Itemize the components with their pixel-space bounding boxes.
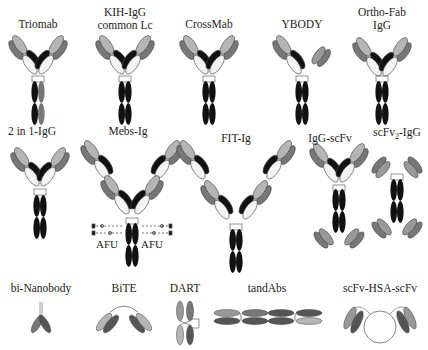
label-2in1-igg: 2 in 1-IgG — [8, 125, 56, 138]
label-crossmab: CrossMab — [185, 18, 232, 31]
figure-2in1-igg — [7, 144, 73, 239]
figure-ybody — [269, 32, 333, 125]
figure-crossmab — [176, 32, 242, 125]
label-kih-igg-line1: KIH-IgG — [97, 6, 152, 19]
label-scfv2-igg-main: scFv — [373, 126, 395, 138]
figure-mebs-ig — [77, 137, 187, 267]
label-ortho-fab-line2: IgG — [358, 19, 406, 32]
annotation-afu-left: AFU — [96, 238, 118, 251]
label-ortho-fab: Ortho-Fab IgG — [358, 6, 406, 32]
annotation-afu-right: AFU — [141, 238, 163, 251]
figure-igg-scfv — [306, 140, 372, 251]
label-bi-nanobody: bi-Nanobody — [11, 282, 72, 295]
label-mebs-ig: Mebs-Ig — [109, 125, 148, 138]
figure-triomab — [5, 32, 71, 125]
label-scfv-hsa-scfv: scFv-HSA-scFv — [343, 282, 417, 295]
label-scfv2-igg-tail: -IgG — [399, 126, 421, 138]
figure-scfv2-igg — [369, 155, 425, 241]
label-ortho-fab-line1: Ortho-Fab — [358, 6, 406, 19]
label-dart: DART — [170, 282, 201, 295]
figure-scfv-hsa-scfv — [341, 305, 418, 343]
figure-bi-nanobody — [29, 302, 53, 334]
label-bite: BiTE — [112, 282, 137, 295]
label-tandabs: tandAbs — [248, 282, 286, 295]
label-scfv2-igg: scFv2-IgG — [373, 126, 420, 143]
bispecific-formats-diagram: Triomab KIH-IgG common Lc CrossMab YBODY… — [0, 0, 428, 350]
label-kih-igg-line2: common Lc — [97, 19, 152, 32]
label-igg-scfv: IgG-scFv — [308, 132, 351, 145]
figure-dart — [177, 301, 200, 345]
label-ybody: YBODY — [282, 18, 323, 31]
label-triomab: Triomab — [18, 18, 57, 31]
figure-tandabs — [214, 310, 322, 325]
label-kih-igg: KIH-IgG common Lc — [97, 6, 152, 32]
figure-bite — [94, 306, 154, 335]
diagram-figures — [0, 0, 428, 350]
figure-kih-igg — [92, 32, 158, 125]
label-fit-ig: FIT-Ig — [221, 132, 251, 145]
figure-ortho-fab — [349, 34, 415, 125]
figure-fit-ig — [173, 137, 299, 273]
